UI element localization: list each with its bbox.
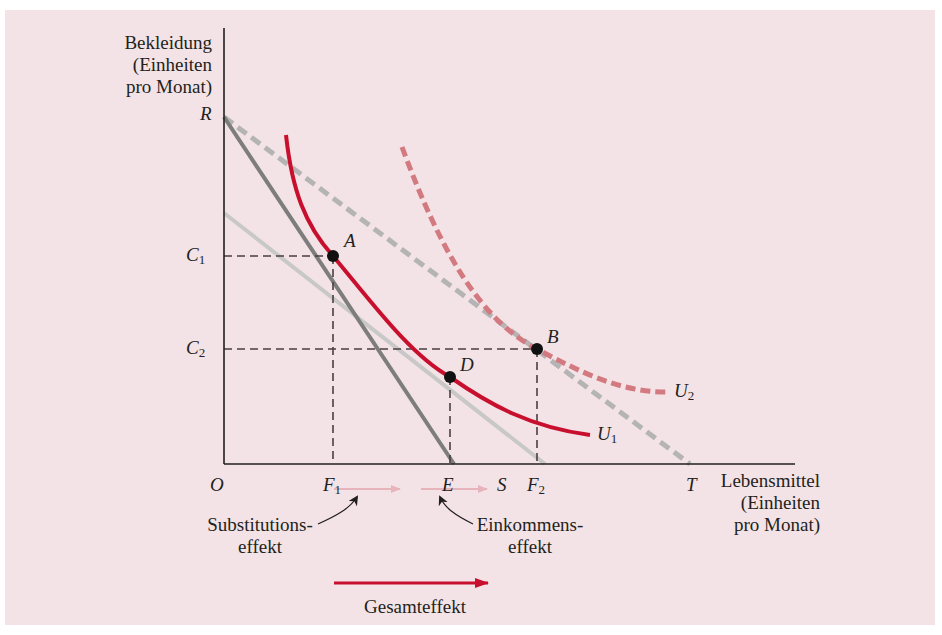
point-D — [444, 371, 456, 383]
label-S: S — [497, 474, 507, 496]
label-F2: F2 — [527, 474, 545, 501]
substitution-effect-line-2: effekt — [200, 536, 320, 558]
indifference-curve-u1 — [286, 135, 590, 435]
y-axis-label-line-1: Bekleidung — [100, 32, 212, 54]
substitution-effect-line-1: Substitutions- — [200, 514, 320, 536]
indifference-curve-u2 — [402, 147, 666, 392]
original-budget-line-RS — [224, 117, 454, 464]
label-C2: C2 — [186, 337, 205, 364]
label-O: O — [210, 474, 224, 496]
label-T: T — [686, 474, 697, 496]
y-axis-label-line-3: pro Monat) — [100, 76, 212, 98]
label-A: A — [344, 230, 356, 252]
x-axis-label: Lebensmittel (Einheiten pro Monat) — [700, 470, 820, 536]
x-axis-label-line-3: pro Monat) — [700, 514, 820, 536]
income-effect-line-2: effekt — [470, 536, 590, 558]
income-pointer-icon — [440, 497, 473, 524]
compensated-budget-line — [224, 213, 545, 464]
substitution-effect-label: Substitutions- effekt — [200, 514, 320, 558]
income-effect-line-1: Einkommens- — [470, 514, 590, 536]
y-axis-label-line-2: (Einheiten — [100, 54, 212, 76]
label-C1: C1 — [186, 244, 205, 271]
x-axis-label-line-1: Lebensmittel — [700, 470, 820, 492]
point-B — [531, 343, 543, 355]
label-U2: U2 — [674, 380, 694, 407]
label-B: B — [547, 326, 559, 348]
y-axis-label: Bekleidung (Einheiten pro Monat) — [100, 32, 212, 98]
point-A — [327, 250, 339, 262]
new-budget-line-RT — [224, 117, 690, 464]
label-D: D — [460, 354, 474, 376]
guide-lines — [224, 256, 537, 464]
substitution-pointer-icon — [318, 497, 357, 524]
total-effect-label: Gesamteffekt — [350, 596, 480, 618]
income-effect-label: Einkommens- effekt — [470, 514, 590, 558]
x-axis-label-line-2: (Einheiten — [700, 492, 820, 514]
label-R: R — [200, 103, 212, 125]
label-F1: F1 — [323, 474, 341, 501]
label-U1: U1 — [597, 423, 617, 450]
label-E: E — [442, 474, 454, 496]
